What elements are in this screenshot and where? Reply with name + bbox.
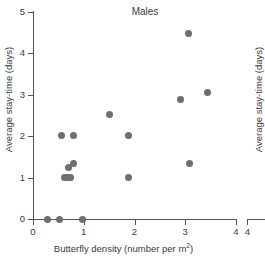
- plot-title: Males: [100, 6, 190, 17]
- x-tick-label: 0: [25, 227, 41, 237]
- scatter-plot-figure: Males Average stay-time (days) Butterfly…: [0, 0, 265, 265]
- x-tick-label: 3: [177, 227, 193, 237]
- x-axis-title-text: Butterfly density (number per m: [54, 243, 187, 254]
- data-point: [186, 160, 193, 167]
- data-point: [44, 216, 51, 223]
- data-point: [56, 216, 63, 223]
- y-tick-mark: [28, 95, 33, 96]
- data-point: [67, 174, 74, 181]
- right-panel-tick: [247, 220, 248, 225]
- x-tick-label: 1: [76, 227, 92, 237]
- data-point: [106, 111, 113, 118]
- data-point: [185, 30, 192, 37]
- y-tick-label: 5: [10, 7, 25, 17]
- data-point: [58, 132, 65, 139]
- data-point: [125, 132, 132, 139]
- y-tick-mark: [28, 53, 33, 54]
- y-tick-label: 0: [10, 214, 25, 224]
- y-tick-label: 1: [10, 173, 25, 183]
- y-tick-label: 4: [10, 48, 25, 58]
- data-point: [177, 96, 184, 103]
- y-tick-label: 2: [10, 131, 25, 141]
- right-panel-y-axis-title: Average stay-time (days): [251, 0, 265, 232]
- data-point: [70, 132, 77, 139]
- y-tick-mark: [28, 136, 33, 137]
- data-point: [70, 160, 77, 167]
- data-point: [79, 216, 86, 223]
- x-tick-label: 2: [127, 227, 143, 237]
- x-tick-mark: [33, 220, 34, 225]
- x-axis-title: Butterfly density (number per m2): [0, 243, 247, 254]
- y-tick-mark: [28, 12, 33, 13]
- x-axis-title-tail: ): [190, 243, 193, 254]
- y-axis-title: Average stay-time (days): [1, 0, 17, 232]
- y-tick-label: 3: [10, 90, 25, 100]
- x-tick-mark: [135, 220, 136, 225]
- x-tick-mark: [185, 220, 186, 225]
- x-tick-mark: [236, 220, 237, 225]
- y-axis-line: [33, 11, 34, 220]
- y-tick-mark: [28, 178, 33, 179]
- data-point: [125, 174, 132, 181]
- data-point: [204, 89, 211, 96]
